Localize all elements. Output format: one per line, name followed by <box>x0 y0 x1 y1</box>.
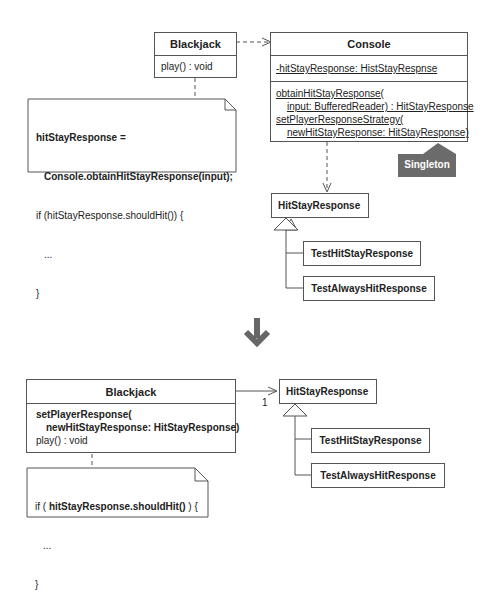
test-always-hit-response-before: TestAlwaysHitResponse <box>303 276 435 301</box>
note-line: hitStayResponse = <box>36 131 233 144</box>
class-name: TestHitStayResponse <box>312 429 429 446</box>
blackjack-class-after: Blackjack setPlayerResponse( newHitStayR… <box>26 379 236 453</box>
note-text: ) { <box>186 501 198 512</box>
code-note-after: if ( hitStayResponse.shouldHit() ) { ...… <box>35 474 198 594</box>
note-text: hitStayResponse.shouldHit() <box>49 501 186 512</box>
blackjack-class-before: Blackjack play() : void <box>154 32 237 78</box>
test-always-hit-response-after: TestAlwaysHitResponse <box>311 463 445 488</box>
down-arrow-icon <box>246 318 268 343</box>
class-name: Blackjack <box>27 380 235 403</box>
operation: input: BufferedReader) : HitStayResponse <box>276 100 462 113</box>
class-name: TestAlwaysHitResponse <box>304 277 434 294</box>
test-hit-stay-response-before: TestHitStayResponse <box>303 241 421 266</box>
hit-stay-response-after: HitStayResponse <box>279 379 377 404</box>
note-line: if ( hitStayResponse.shouldHit() ) { <box>35 500 198 513</box>
operation: setPlayerResponse( <box>36 408 226 421</box>
operation: play() : void <box>155 56 236 77</box>
class-name: Blackjack <box>155 33 236 55</box>
class-name: HitStayResponse <box>280 380 376 403</box>
note-line: Console.obtainHitStayResponse(input); <box>36 170 233 183</box>
note-text: if ( <box>35 501 49 512</box>
note-line: } <box>36 287 233 300</box>
operation: obtainHitStayResponse( <box>276 87 462 100</box>
note-line: ... <box>36 248 233 261</box>
class-name: Console <box>271 33 467 55</box>
operation: newHitStayResponse: HitStayResponse) <box>36 421 226 434</box>
class-name: TestAlwaysHitResponse <box>312 464 444 481</box>
class-name: TestHitStayResponse <box>304 242 420 259</box>
hit-stay-response-before: HitStayResponse <box>271 193 369 218</box>
note-line: } <box>35 578 198 591</box>
operation: setPlayerResponseStrategy( <box>276 113 462 126</box>
code-note-before: hitStayResponse = Console.obtainHitStayR… <box>36 105 233 313</box>
singleton-tag: Singleton <box>398 159 456 170</box>
operation: play() : void <box>36 434 226 447</box>
multiplicity-label: 1 <box>262 396 268 409</box>
class-name: HitStayResponse <box>272 194 368 217</box>
note-line: if (hitStayResponse.shouldHit()) { <box>36 209 233 222</box>
attribute: -hitStayResponse: HistStayRespnse <box>271 56 467 81</box>
test-hit-stay-response-after: TestHitStayResponse <box>311 428 430 453</box>
console-class: Console -hitStayResponse: HistStayRespns… <box>270 32 468 142</box>
operation: newHitStayResponse: HitStayResponse) <box>276 126 462 139</box>
note-line: ... <box>35 539 198 552</box>
